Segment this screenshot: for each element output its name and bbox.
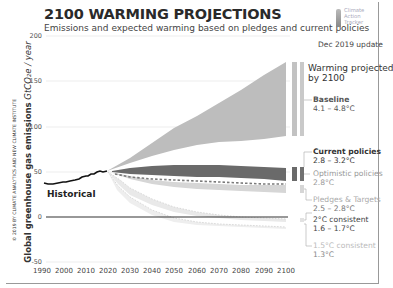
one-point-five-degree-label: 1.5°C consistent 1.3°C	[313, 242, 376, 260]
x-tick: 2040	[143, 267, 161, 275]
optimistic-policies-label: Optimistic policies 2.8°C	[313, 170, 383, 188]
x-tick: 2090	[255, 267, 273, 275]
baseline-bar-right	[300, 62, 304, 136]
warming-heading: Warming projected by 2100	[308, 63, 393, 83]
historical-label: Historical	[47, 189, 95, 199]
x-tick: 2080	[232, 267, 250, 275]
current-policies-label: Current policies 2.8 – 3.2°C	[313, 148, 381, 166]
historical-line	[44, 171, 107, 184]
baseline-label: Baseline 4.1 – 4.8°C	[313, 96, 355, 114]
baseline-bar-left	[292, 62, 297, 136]
x-tick: 2010	[77, 267, 95, 275]
x-tick: 1990	[33, 267, 51, 275]
two-degree-bar	[300, 218, 304, 222]
x-tick: 2050	[165, 267, 183, 275]
x-tick: 2070	[210, 267, 228, 275]
x-tick: 2100	[277, 267, 295, 275]
two-degree-label: 2°C consistent 1.6 – 1.7°C	[313, 216, 368, 234]
pledges-bar	[300, 185, 304, 193]
x-tick: 2020	[99, 267, 117, 275]
current-bar-left	[292, 167, 297, 181]
baseline-band	[107, 62, 286, 171]
current-bar-right	[300, 167, 304, 181]
x-tick: 2030	[121, 267, 139, 275]
label-connectors	[304, 100, 312, 246]
x-tick: 2000	[55, 267, 73, 275]
x-tick: 2060	[188, 267, 206, 275]
pledges-targets-label: Pledges & Targets 2.5 – 2.8°C	[313, 196, 381, 214]
